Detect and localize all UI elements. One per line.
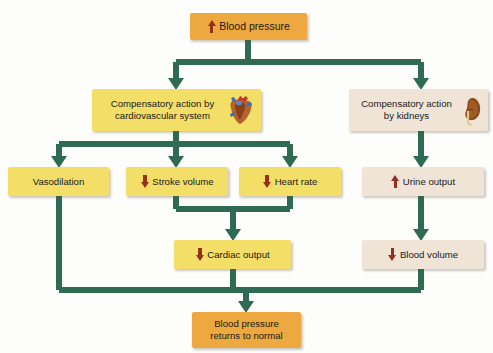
node-urine-output[interactable]: Urine output [362, 167, 484, 196]
increase-arrow-icon [391, 175, 400, 188]
node-compensatory-cardiovascular[interactable]: Compensatory action by cardiovascular sy… [92, 89, 261, 131]
node-label: Blood pressure returns to normal [210, 318, 283, 341]
node-label: Stroke volume [152, 176, 213, 188]
node-blood-volume[interactable]: Blood volume [362, 240, 484, 269]
decrease-arrow-icon [140, 175, 149, 188]
node-compensatory-kidneys[interactable]: Compensatory action by kidneys [349, 89, 488, 131]
node-label: Compensatory action by cardiovascular sy… [111, 98, 214, 121]
node-label: Blood volume [400, 249, 458, 261]
flowchart-diagram: .ln { stroke: #2f6b52; stroke-width: 6; … [0, 0, 493, 353]
node-label: Compensatory action by kidneys [361, 98, 452, 121]
decrease-arrow-icon [263, 175, 272, 188]
decrease-arrow-icon [388, 248, 397, 261]
node-heart-rate[interactable]: Heart rate [239, 167, 341, 196]
node-label: Cardiac output [207, 249, 269, 261]
node-label: Urine output [403, 176, 455, 188]
node-stroke-volume[interactable]: Stroke volume [126, 167, 228, 196]
node-label: Blood pressure [219, 20, 290, 33]
node-label: Heart rate [275, 176, 318, 188]
node-blood-pressure-normal[interactable]: Blood pressure returns to normal [192, 312, 301, 348]
node-label: Vasodilation [33, 176, 85, 188]
node-vasodilation[interactable]: Vasodilation [8, 167, 109, 196]
increase-arrow-icon [207, 20, 216, 33]
node-blood-pressure-rise[interactable]: Blood pressure [190, 13, 307, 40]
node-cardiac-output[interactable]: Cardiac output [174, 240, 291, 269]
decrease-arrow-icon [195, 248, 204, 261]
